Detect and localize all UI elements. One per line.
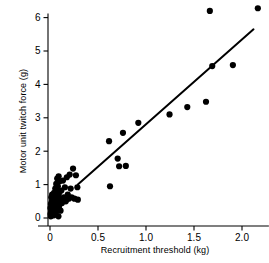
data-point [166,111,172,117]
data-point [115,155,121,161]
data-point [203,99,209,105]
scatter-plot-figure: 012345600.51.01.52.0 Motor unit twitch f… [0,0,269,263]
plot-canvas: 012345600.51.01.52.0 [0,0,269,263]
data-point [230,62,236,68]
x-tick-label: 0 [47,232,53,243]
y-tick-label: 4 [35,79,41,90]
data-point [106,138,112,144]
data-point [75,197,81,203]
data-point [62,184,68,190]
y-tick-label: 5 [35,45,41,56]
data-point [120,130,126,136]
x-tick-label: 0.5 [91,232,105,243]
x-tick-label: 2.0 [235,232,249,243]
regression-line [78,29,254,184]
x-axis-title: Recruitment threshold (kg) [55,245,255,255]
data-point [68,186,74,192]
data-point [135,120,141,126]
data-point [116,163,122,169]
x-tick-label: 1.5 [187,232,201,243]
y-tick-label: 2 [35,146,41,157]
data-point [57,208,63,214]
x-tick-label: 1.0 [139,232,153,243]
y-tick-label: 6 [35,12,41,23]
data-point [67,171,73,177]
data-point [184,104,190,110]
data-point [107,183,113,189]
data-point [209,63,215,69]
data-point [73,172,79,178]
data-point [207,8,213,14]
y-tick-label: 1 [35,179,41,190]
data-point [123,163,129,169]
data-point [55,213,61,219]
y-axis-title: Motor unit twitch force (g) [18,46,28,196]
data-point [74,184,80,190]
data-point [255,5,261,11]
y-tick-label: 3 [35,112,41,123]
data-point [70,165,76,171]
y-tick-label: 0 [35,212,41,223]
